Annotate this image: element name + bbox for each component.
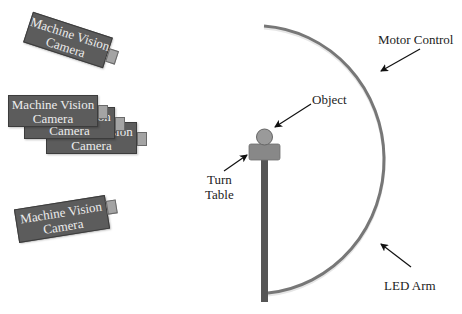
turn-table-label: Turn Table [205, 172, 234, 202]
machine-vision-setup-diagram: Machine Vision Camera Machine Vision Cam… [0, 0, 462, 314]
led-arm-label: LED Arm [384, 278, 436, 293]
turn-table [249, 144, 280, 160]
camera-lens-icon [137, 132, 147, 146]
camera-lens-icon [115, 117, 125, 131]
led-arm-arrow [381, 244, 411, 267]
camera-stack-front: Machine Vision Camera [8, 95, 98, 127]
object [257, 129, 273, 145]
object-label: Object [312, 92, 347, 107]
led-arm [264, 26, 384, 295]
support-pole [261, 158, 268, 302]
object-arrow [275, 104, 311, 127]
camera-lens-icon [98, 105, 108, 119]
turn-table-arrow [224, 155, 247, 171]
motor-control-label: Motor Control [378, 32, 453, 47]
camera-label: Machine Vision Camera [9, 98, 97, 126]
motor-control-arrow [381, 49, 420, 71]
camera-lens-icon [106, 199, 118, 214]
